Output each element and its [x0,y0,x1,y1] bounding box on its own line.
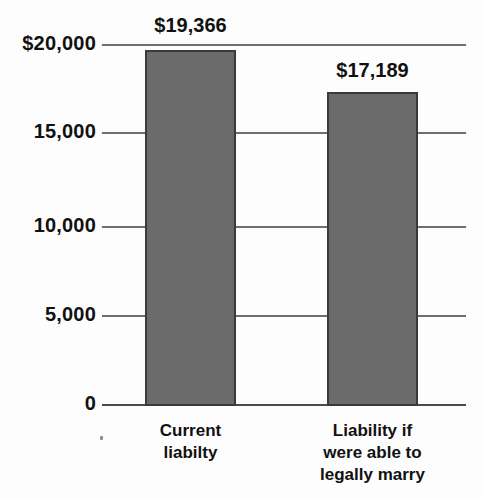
ytick-label-5000: 5,000 [45,304,96,324]
gridline-20000 [102,44,466,46]
ytick-label-20000: $20,000 [22,33,96,53]
bar-current-liability [145,50,236,406]
category-label-bar-2-line-3: legally marry [297,464,448,486]
ytick-label-0: 0 [85,393,96,413]
ytick-label-15000: 15,000 [34,121,96,141]
scan-speck-artifact [100,436,103,440]
category-label-bar-1-line-2: liabilty [124,442,257,464]
ytick-label-10000: 10,000 [34,215,96,235]
value-label-bar-1: $19,366 [145,15,236,35]
category-label-bar-2: Liability if were able to legally marry [297,420,448,485]
category-label-bar-1-line-1: Current [124,420,257,442]
category-label-bar-2-line-1: Liability if [297,420,448,442]
bar-chart: $20,000 15,000 10,000 5,000 0 $19,366 $1… [0,0,482,500]
value-label-bar-2: $17,189 [327,60,418,80]
category-label-bar-2-line-2: were able to [297,442,448,464]
category-label-bar-1: Current liabilty [124,420,257,464]
bar-liability-if-legally-married [327,92,418,406]
